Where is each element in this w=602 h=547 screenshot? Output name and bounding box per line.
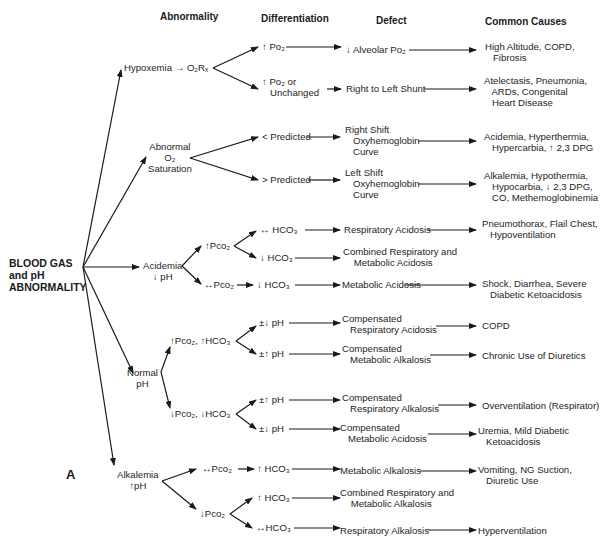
diff-alk-hco3-up: ↑ HCO₃ [257,463,290,474]
cause-acidemia: Acidemia, Hyperthermia, Hypercarbia, ↑ 2… [484,131,593,153]
cause-diuretics: Chronic Use of Diuretics [482,350,585,361]
node-hypoxemia: Hypoxemia → O₂Rₓ [124,62,208,73]
header-defect: Defect [376,15,407,26]
diff-alk-pco2-down: ↓Pco₂ [200,508,225,519]
defect-alveolar-po2: ↓ Alveolar Po₂ [346,44,406,55]
diff-normal-ph-up: ±↑ pH [259,348,284,359]
cause-atelectasis: Atelectasis, Pneumonia, ARDs, Congenital… [484,75,587,108]
defect-right-shift: Right Shift Oxyhemoglobin Curve [345,124,420,157]
diff-normal-pco2-hco3-up: ↑Pco₂, ↑HCO₃ [170,335,230,346]
node-normal-ph: Normal pH [127,367,158,389]
diff-acid-pco2-up: ↑Pco₂ [205,240,230,251]
defect-metabolic-acidosis: Metabolic Acidosis [342,279,421,290]
defect-respiratory-acidosis: Respiratory Acidosis [344,224,431,235]
node-acidemia: Acidemia ↓ pH [143,260,182,282]
diff-normal-ph-down-2: ±↓ pH [259,423,284,434]
diff-normal-ph-up-2: ±↑ pH [259,394,284,405]
defect-combined-acidosis: Combined Respiratory and Metabolic Acido… [343,246,457,268]
diff-alk-pco2-unchanged: ↔Pco₂ [202,463,232,474]
diff-alk-hco3-unchanged: ↔HCO₃ [256,522,291,533]
header-common-causes: Common Causes [485,16,567,27]
defect-comp-respiratory-acidosis: Compensated Respiratory Acidosis [342,313,437,335]
defect-combined-alkalosis: Combined Respiratory and Metabolic Alkal… [340,487,454,509]
diff-acid-hco3-down-2: ↓ HCO₃ [257,279,290,290]
defect-comp-metabolic-acidosis: Compensated Metabolic Acidosis [340,422,427,444]
diff-po2-unchanged: ↑ Po₂ or Unchanged [262,76,319,98]
header-differentiation: Differentiation [261,13,329,24]
defect-metabolic-alkalosis: Metabolic Alkalosis [340,465,421,476]
cause-pneumothorax: Pneumothorax, Flail Chest, Hypoventilati… [482,218,598,240]
cause-high-altitude: High Altitude, COPD, Fibrosis [485,41,575,63]
cause-copd: COPD [482,320,510,331]
header-abnormality: Abnormality [160,11,218,22]
diff-acid-pco2-unchanged: ↔Pco₂ [204,279,234,290]
cause-vomiting: Vomiting, NG Suction, Diuretic Use [478,464,572,486]
cause-uremia: Uremia, Mild Diabetic Ketoacidosis [478,425,569,447]
defect-left-shift: Left Shift Oxyhemoglobin Curve [345,167,420,200]
diff-po2-increased: ↑ Po₂ [262,41,285,52]
cause-overventilation: Overventilation (Respirator) [482,400,599,411]
defect-respiratory-alkalosis: Respiratory Alkalosis [340,525,429,536]
diff-acid-hco3-unchanged: ↔ HCO₃ [260,224,298,235]
defect-comp-respiratory-alkalosis: Compensated Respiratory Alkalosis [342,392,439,414]
diff-normal-ph-down: ±↓ pH [259,317,284,328]
diff-alk-hco3-up-2: ↑ HCO₃ [257,492,290,503]
node-alkalemia: Alkalemia ↑pH [117,469,159,491]
cause-hyperventilation: Hyperventilation [478,525,547,536]
panel-label: A [66,467,75,482]
cause-shock: Shock, Diarrhea, Severe Diabetic Ketoaci… [482,278,587,300]
defect-right-left-shunt: Right to Left Shunt [346,83,425,94]
diff-greater-than-predicted: > Predicted [262,174,311,185]
cause-alkalemia: Alkalemia, Hypothermia, Hypocarbia, ↓ 2,… [484,170,598,203]
diff-less-than-predicted: < Predicted [262,131,311,142]
defect-comp-metabolic-alkalosis: Compensated Metabolic Alkalosis [342,343,431,365]
diff-normal-pco2-hco3-down: ↓Pco₂, ↓HCO₃ [170,408,230,419]
diff-acid-hco3-down: ↓ HCO₃ [260,252,293,263]
root-node-blood-gas: BLOOD GAS and pH ABNORMALITY [9,257,87,293]
node-abnormal-o2-saturation: Abnormal O₂ Saturation [148,141,192,174]
